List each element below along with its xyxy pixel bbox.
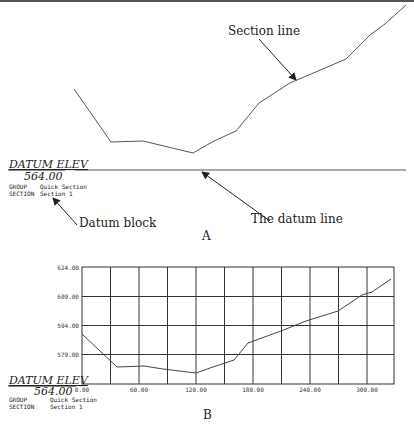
x-tick-120: 120.00 <box>185 386 207 393</box>
datum-block-label: Datum block <box>79 216 157 230</box>
group-value-b: Quick Section <box>50 396 97 403</box>
section-value-a: Section 1 <box>40 190 73 197</box>
section-line-arrow <box>259 39 296 80</box>
group-key-a: GROUP <box>9 183 27 190</box>
x-tick-0: 0.00 <box>75 386 90 393</box>
y-tick-579: 579.00 <box>57 351 79 358</box>
y-tick-609: 609.00 <box>57 293 79 300</box>
group-key-b: GROUP <box>9 396 27 403</box>
x-tick-240: 240.00 <box>299 386 321 393</box>
x-tick-300: 300.00 <box>356 386 378 393</box>
section-key-a: SECTION <box>9 190 35 197</box>
panel-b-label: B <box>203 408 212 422</box>
section-line-label: Section line <box>228 24 300 38</box>
diagram-canvas: Section line The datum line Datum block … <box>0 0 414 427</box>
group-value-a: Quick Section <box>40 183 87 190</box>
y-tick-594: 594.00 <box>57 322 79 329</box>
section-value-b: Section 1 <box>50 403 83 410</box>
x-tick-60: 60.00 <box>130 386 148 393</box>
x-tick-180: 180.00 <box>242 386 264 393</box>
panel-a-label: A <box>201 229 211 243</box>
section-key-b: SECTION <box>9 403 35 410</box>
datum-block-arrow <box>53 198 77 225</box>
y-tick-624: 624.00 <box>57 264 79 271</box>
datum-line-label: The datum line <box>251 212 343 226</box>
datum-elev-a: 564.00 <box>24 170 63 183</box>
